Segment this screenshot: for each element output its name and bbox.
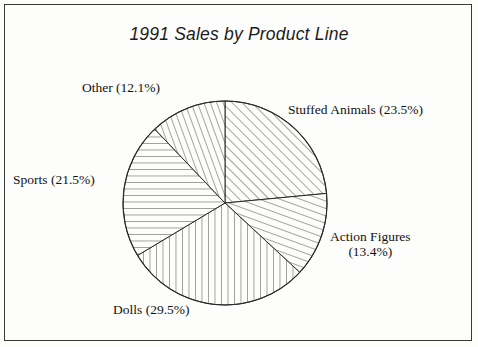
pie-label-stuffed-animals: Stuffed Animals (23.5%) <box>288 102 423 117</box>
pie-label-action-figures-line1: Action Figures <box>330 229 411 244</box>
chart-page: 1991 Sales by Product Line <box>0 0 478 347</box>
pie-label-dolls: Dolls (29.5%) <box>113 302 190 317</box>
pie-label-sports: Sports (21.5%) <box>13 172 95 187</box>
pie-label-action-figures-line2: (13.4%) <box>330 244 411 259</box>
pie-label-action-figures: Action Figures (13.4%) <box>330 229 411 259</box>
pie-label-other: Other (12.1%) <box>82 80 160 95</box>
